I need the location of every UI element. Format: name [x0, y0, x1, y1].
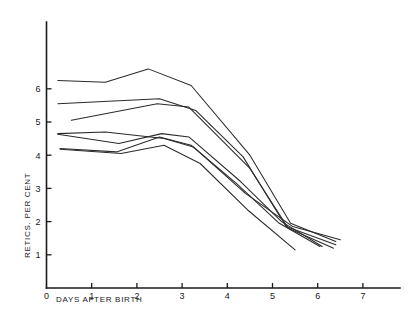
x-tick-label: 4 — [225, 291, 230, 301]
y-tick-label: 3 — [35, 184, 40, 194]
x-tick-label: 6 — [315, 291, 320, 301]
y-tick-label: 2 — [35, 217, 40, 227]
y-tick-label: 5 — [35, 117, 40, 127]
series-line-infant-6 — [60, 137, 320, 247]
series-line-infant-4 — [58, 132, 341, 240]
x-tick-label: 5 — [270, 291, 275, 301]
series-line-infant-1 — [58, 69, 336, 242]
y-tick-label: 6 — [35, 84, 40, 94]
x-axis-title: DAYS AFTER BIRTH — [56, 295, 142, 304]
series-line-infant-7 — [60, 145, 295, 250]
x-tick-label: 3 — [180, 291, 185, 301]
y-axis-ticks: 123456 — [35, 84, 51, 260]
data-series-group — [58, 69, 341, 250]
y-tick-label: 4 — [35, 151, 40, 161]
y-axis-title: RETICS. PER CENT — [23, 173, 32, 258]
x-tick-label: 0 — [44, 291, 49, 301]
y-tick-label: 1 — [35, 250, 40, 260]
x-tick-label: 7 — [360, 291, 365, 301]
series-line-infant-2 — [58, 99, 336, 245]
reticulocyte-line-chart: 123456 01234567 DAYS AFTER BIRTH RETICS.… — [0, 0, 417, 320]
chart-canvas: 123456 01234567 DAYS AFTER BIRTH RETICS.… — [0, 0, 417, 320]
